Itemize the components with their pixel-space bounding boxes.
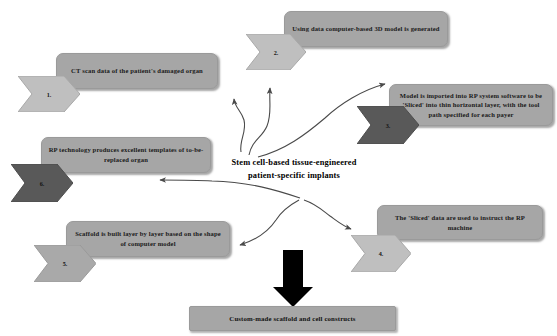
output-box[interactable]: Custom-made scaffold and cell constructs (189, 306, 396, 331)
arrow-to-step2 (249, 88, 270, 155)
step-4-chevron[interactable]: 4. (351, 235, 411, 272)
step-2-box[interactable]: Using data computer-based 3D model is ge… (284, 11, 448, 47)
center-label: Stem cell-based tissue-engineered patien… (206, 156, 382, 182)
step-3-number: 3. (386, 122, 391, 129)
step-2-chevron[interactable]: 2. (246, 34, 306, 70)
step-2-number: 2. (274, 49, 279, 56)
step-6-chevron[interactable]: 6. (11, 164, 73, 202)
black-down-arrow (273, 250, 313, 307)
output-box-text: Custom-made scaffold and cell constructs (229, 315, 355, 322)
arrow-to-step1 (234, 99, 245, 152)
step-3-chevron[interactable]: 3. (357, 106, 419, 144)
step-1-chevron[interactable]: 1. (18, 76, 80, 112)
step-4-number: 4. (379, 250, 384, 257)
center-label-line2: patient-specific implants (206, 169, 382, 182)
center-label-line1: Stem cell-based tissue-engineered (206, 156, 382, 169)
step-5-number: 5. (63, 260, 68, 267)
step-6-number: 6. (40, 180, 45, 187)
arrow-to-step5 (240, 200, 299, 245)
step-5-chevron[interactable]: 5. (34, 245, 96, 282)
arrow-to-step4 (304, 200, 351, 229)
flowchart-diagram: CT scan data of the patient's damaged or… (0, 0, 557, 336)
arrow-to-step6 (160, 180, 300, 198)
step-6-text: RP technology produces excellent templat… (42, 145, 210, 164)
step-2-text: Using data computer-based 3D model is ge… (286, 24, 445, 34)
step-1-text: CT scan data of the patient's damaged or… (65, 66, 209, 76)
step-1-box[interactable]: CT scan data of the patient's damaged or… (56, 53, 218, 89)
step-4-text: The 'Sliced' data are used to instruct t… (378, 213, 542, 232)
step-1-number: 1. (47, 91, 52, 98)
